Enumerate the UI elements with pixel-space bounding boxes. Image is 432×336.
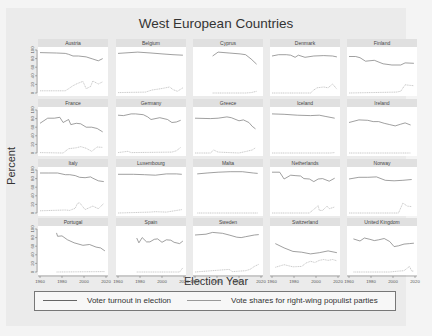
x-tick-label: 2000 [311, 279, 321, 284]
panel-title: Ireland [374, 100, 390, 106]
panel-title: Austria [65, 40, 81, 46]
panel-title: Greece [220, 100, 237, 106]
panel-denmark: Denmark [270, 39, 340, 96]
y-tick-label: 60 [30, 124, 35, 129]
x-tick-label: 1960 [190, 279, 200, 284]
x-tick-label: 1960 [35, 279, 45, 284]
panel-sweden: Sweden1960198020002020 [190, 218, 266, 284]
panel-title: Netherlands [292, 160, 319, 166]
x-tick-label: 2000 [79, 279, 89, 284]
y-tick-label: 20 [30, 260, 35, 265]
y-tick-label: 0 [30, 211, 35, 214]
x-tick-label: 1980 [289, 279, 299, 284]
panel-title: Denmark [295, 40, 316, 46]
legend: Voter turnout in election Vote shares fo… [34, 291, 396, 311]
x-tick-label: 2020 [179, 279, 189, 284]
panel-greece: Greece [193, 99, 263, 156]
y-tick-label: 80 [30, 56, 35, 61]
x-tick-label: 1960 [344, 279, 354, 284]
y-tick-label: 60 [30, 243, 35, 248]
panel-title: Cyprus [220, 40, 236, 46]
x-tick-label: 1980 [135, 279, 145, 284]
y-tick-label: 80 [30, 235, 35, 240]
x-tick-label: 2000 [157, 279, 167, 284]
y-tick-label: 40 [30, 252, 35, 257]
legend-item-populist: Vote shares for right-wing populist part… [187, 296, 378, 305]
panel-title: Luxembourg [137, 160, 165, 166]
legend-label-turnout: Voter turnout in election [87, 296, 171, 305]
panel-title: Sweden [219, 219, 237, 225]
y-tick-label: 100 [30, 225, 35, 233]
x-tick-label: 2020 [333, 279, 343, 284]
panel-germany: Germany [116, 99, 186, 156]
small-multiples-grid: Austria020406080100BelgiumCyprusDenmarkF… [0, 0, 432, 336]
panel-title: Switzerland [292, 219, 318, 225]
y-tick-label: 60 [30, 64, 35, 69]
panel-portugal: Portugal0204060801001960198020002020 [30, 218, 111, 284]
y-tick-label: 100 [30, 46, 35, 54]
x-tick-label: 2020 [256, 279, 266, 284]
panel-title: Italy [68, 160, 78, 166]
x-tick-label: 2020 [410, 279, 420, 284]
panel-finland: Finland [347, 39, 417, 96]
legend-swatch-populist [187, 300, 221, 301]
panel-title: Spain [145, 219, 158, 225]
legend-swatch-turnout [43, 300, 77, 301]
y-tick-label: 40 [30, 193, 35, 198]
panel-austria: Austria020406080100 [30, 39, 108, 96]
panel-malta: Malta [193, 159, 263, 216]
y-tick-label: 0 [30, 270, 35, 273]
panel-title: Belgium [142, 40, 160, 46]
panel-italy: Italy020406080100 [30, 159, 108, 216]
y-tick-label: 20 [30, 81, 35, 86]
panel-luxembourg: Luxembourg [116, 159, 186, 216]
y-tick-label: 0 [30, 91, 35, 94]
y-tick-label: 20 [30, 201, 35, 206]
panel-title: Portugal [64, 219, 83, 225]
panel-iceland: Iceland [270, 99, 340, 156]
y-tick-label: 0 [30, 151, 35, 154]
x-tick-label: 1960 [267, 279, 277, 284]
panel-title: Germany [141, 100, 162, 106]
panel-norway: Norway [347, 159, 417, 216]
panel-ireland: Ireland [347, 99, 417, 156]
x-tick-label: 2000 [234, 279, 244, 284]
y-tick-label: 40 [30, 133, 35, 138]
panel-title: Malta [222, 160, 234, 166]
panel-title: United Kingdom [364, 219, 400, 225]
y-tick-label: 40 [30, 73, 35, 78]
x-tick-label: 1980 [57, 279, 67, 284]
panel-title: France [65, 100, 81, 106]
panel-switzerland: Switzerland1960198020002020 [267, 218, 343, 284]
legend-label-populist: Vote shares for right-wing populist part… [231, 296, 378, 305]
panel-netherlands: Netherlands [270, 159, 340, 216]
panel-france: France020406080100 [30, 99, 108, 156]
y-tick-label: 60 [30, 184, 35, 189]
y-tick-label: 80 [30, 116, 35, 121]
x-tick-label: 2020 [101, 279, 111, 284]
panel-title: Finland [374, 40, 391, 46]
panel-title: Iceland [297, 100, 313, 106]
x-tick-label: 1960 [113, 279, 123, 284]
x-tick-label: 2000 [388, 279, 398, 284]
panel-cyprus: Cyprus [193, 39, 263, 96]
y-tick-label: 80 [30, 176, 35, 181]
panel-title: Norway [374, 160, 391, 166]
y-tick-label: 100 [30, 166, 35, 174]
legend-item-turnout: Voter turnout in election [43, 296, 171, 305]
panel-united-kingdom: United Kingdom1960198020002020 [344, 218, 420, 284]
y-tick-label: 20 [30, 141, 35, 146]
x-tick-label: 1980 [212, 279, 222, 284]
x-tick-label: 1980 [366, 279, 376, 284]
panel-spain: Spain1960198020002020 [113, 218, 189, 284]
y-tick-label: 100 [30, 106, 35, 114]
panel-belgium: Belgium [116, 39, 186, 96]
